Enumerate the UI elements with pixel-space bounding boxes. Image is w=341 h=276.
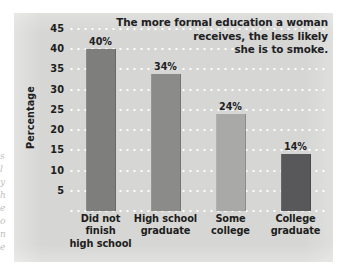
bar-1 [86, 49, 116, 211]
y-axis-tick-20: 20 [40, 125, 64, 135]
category-label-1: Did notfinishhigh school [68, 213, 133, 250]
scan-edge-artifacts: slyheone [0, 150, 11, 262]
scan-artifact-line: o [0, 215, 11, 228]
category-label-line: high school [68, 238, 133, 250]
bar-value-label-2: 34% [154, 61, 177, 72]
chart-title: The more formal education a woman receiv… [106, 16, 328, 57]
y-axis-tick-10: 10 [40, 166, 64, 176]
bar-value-label-4: 14% [284, 141, 307, 152]
scan-artifact-line: l [0, 163, 11, 176]
chart-title-line-1: The more formal education a woman [106, 16, 328, 30]
y-axis-tick-30: 30 [40, 85, 64, 95]
chart-title-line-2: receives, the less likely [106, 30, 328, 44]
bar-4 [281, 154, 311, 211]
category-label-2: High schoolgraduate [133, 213, 198, 238]
bar-value-label-3: 24% [219, 101, 242, 112]
y-axis-ticks: 45403530252015105 [40, 13, 64, 262]
scan-artifact-line: n [0, 228, 11, 241]
chart-title-line-3: she is to smoke. [106, 43, 328, 57]
bar-chart-panel: The more formal education a woman receiv… [14, 13, 333, 262]
scan-artifact-line: y [0, 176, 11, 189]
category-label-line: graduate [133, 225, 198, 237]
category-label-line: College [263, 213, 328, 225]
scan-artifact-line: e [0, 241, 11, 254]
category-label-3: Somecollege [198, 213, 263, 238]
category-label-line: finish [68, 225, 133, 237]
category-label-4: Collegegraduate [263, 213, 328, 238]
scan-artifact-line: s [0, 150, 11, 163]
category-label-line: graduate [263, 225, 328, 237]
scan-artifact-line: h [0, 189, 11, 202]
category-label-line: Some [198, 213, 263, 225]
y-axis-tick-35: 35 [40, 64, 64, 74]
x-axis-category-labels: Did notfinishhigh schoolHigh schoolgradu… [68, 213, 328, 265]
y-axis-title: Percentage [25, 86, 36, 150]
scan-artifact-line: e [0, 202, 11, 215]
y-axis-tick-25: 25 [40, 105, 64, 115]
bar-3 [216, 114, 246, 211]
y-axis-tick-45: 45 [40, 24, 64, 34]
y-axis-tick-15: 15 [40, 145, 64, 155]
category-label-line: Did not [68, 213, 133, 225]
bar-2 [151, 74, 181, 212]
y-axis-tick-5: 5 [40, 186, 64, 196]
category-label-line: High school [133, 213, 198, 225]
category-label-line: college [198, 225, 263, 237]
y-axis-tick-40: 40 [40, 44, 64, 54]
